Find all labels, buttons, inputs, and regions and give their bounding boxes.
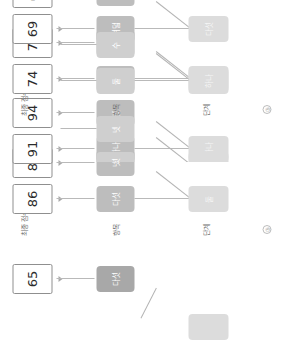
score-box: 86 [12, 184, 52, 214]
mid-node: 다섯 [96, 186, 134, 212]
arrow-up-icon [58, 196, 62, 202]
connector-line [155, 137, 190, 162]
connector-line [60, 44, 96, 45]
cluster-a: 65 다섯 여섯 [0, 240, 305, 324]
ghost-node: 여섯 [96, 152, 134, 162]
connector-line [134, 198, 190, 199]
base-node: 둘 [188, 152, 228, 162]
row-label-mid: 항목 [112, 224, 120, 236]
connector-line [155, 53, 190, 81]
connector-line [56, 278, 94, 279]
ghost-node: 넷 [96, 116, 134, 142]
base-node [188, 314, 228, 340]
score-box: 65 [12, 264, 52, 294]
foot-mark: ③ [262, 225, 271, 234]
base-node: 둘 [188, 186, 228, 212]
connector-line [140, 288, 156, 319]
arrow-up-icon [58, 276, 62, 282]
ghost-node: 둘 [96, 68, 134, 94]
connector-line [56, 198, 94, 199]
ghost-node: 수 [96, 32, 134, 58]
mid-node: 다섯 [96, 266, 134, 292]
connector-line [60, 80, 96, 81]
connector-line [155, 171, 190, 199]
base-node: 하나 [188, 68, 228, 94]
connector-line [134, 80, 190, 81]
continuation-band: 여섯 항목 단계 ③ 여섯 넷 둘 둘 수 하나 [0, 0, 305, 162]
connector-line [60, 128, 96, 129]
row-label-base: 단계 [202, 224, 210, 236]
